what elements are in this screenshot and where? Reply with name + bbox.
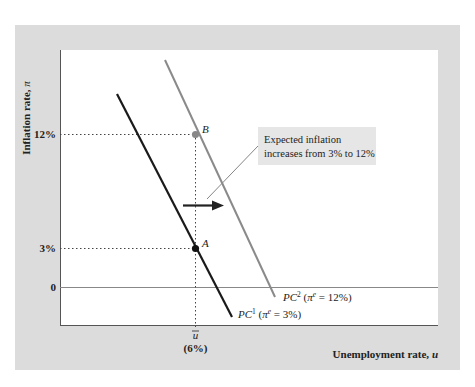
callout-box (258, 127, 376, 165)
y-tick-3: 3% (40, 242, 57, 254)
y-tick-0: 0 (51, 281, 57, 293)
phillips-curve-figure: Expected inflation increases from 3% to … (0, 0, 475, 387)
plot-area (60, 50, 438, 325)
x-tick-ubar: u (193, 329, 199, 341)
callout-line1: Expected inflation (264, 134, 342, 145)
x-tick-ubar-pct: (6%) (184, 342, 208, 355)
callout-line2: increases from 3% to 12% (264, 148, 375, 159)
point-a-label: A (201, 237, 209, 249)
x-axis-label: Unemployment rate, u (333, 348, 438, 360)
point-a (192, 245, 199, 252)
y-axis-label: Inflation rate, π (20, 81, 32, 155)
point-b-label: B (202, 123, 209, 135)
pc2-label: PC2 (πe = 12%) (282, 290, 352, 304)
y-tick-12: 12% (34, 128, 56, 140)
point-b (192, 131, 199, 138)
